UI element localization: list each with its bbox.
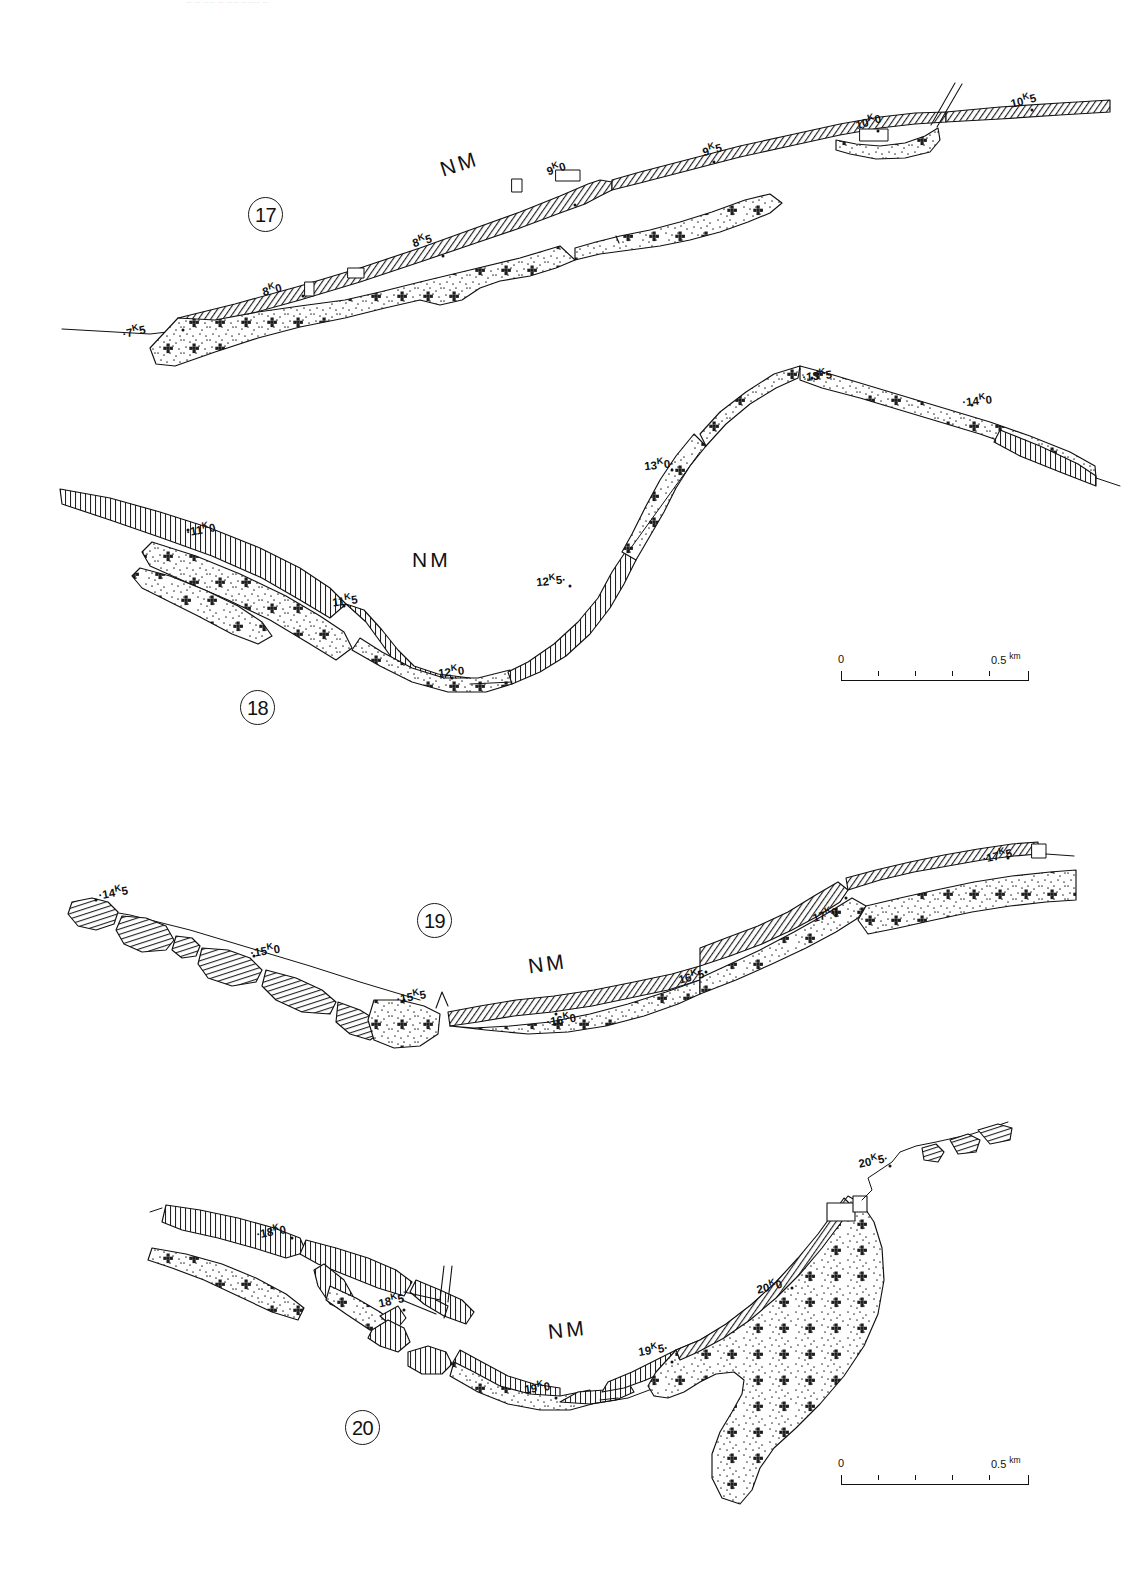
scale-tick — [915, 1475, 916, 1480]
scale-bar-rule — [841, 1475, 1029, 1485]
km-label: 12K5· — [535, 570, 566, 588]
km-label: ·14K0 — [961, 390, 992, 408]
scale-tick — [915, 671, 916, 676]
scale-tick — [878, 1475, 879, 1480]
panel-20-geometry — [148, 1122, 1012, 1504]
km-label: 12K0 — [437, 662, 465, 679]
scale-tick — [952, 1475, 953, 1480]
panel-badge-19: 19 — [417, 903, 452, 938]
panel-18-geometry — [60, 366, 1120, 692]
area-label-nm-18: NM — [412, 548, 451, 572]
scale-max-label: 0.5 km — [991, 651, 1021, 666]
scale-tick — [989, 671, 990, 676]
scale-tick — [989, 1475, 990, 1480]
figure-canvas: … … …… … …… ……… … — [0, 0, 1138, 1578]
scale-zero-label: 0 — [838, 653, 844, 665]
panel-17-geometry — [62, 83, 1110, 366]
scale-zero-label: 0 — [838, 1457, 844, 1469]
scale-bar-rule — [841, 671, 1029, 681]
km-label: 13K0· — [643, 454, 674, 472]
scale-tick — [952, 671, 953, 676]
km-label: ·13K5 — [801, 365, 832, 383]
panel-badge-17: 17 — [248, 197, 283, 232]
scale-max-label: 0.5 km — [991, 1455, 1021, 1470]
panel-badge-20: 20 — [345, 1410, 380, 1445]
area-label-nm-20: NM — [547, 1316, 588, 1344]
scale-tick — [878, 671, 879, 676]
panel-badge-18: 18 — [240, 690, 275, 725]
